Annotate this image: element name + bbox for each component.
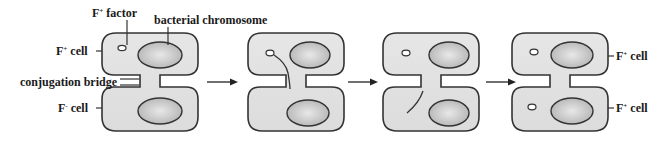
f-factor-plasmid-bottom	[528, 104, 536, 110]
stage-3	[383, 33, 479, 131]
f-factor-plasmid	[402, 50, 410, 56]
stage-4	[512, 33, 608, 131]
chromosome-bottom	[138, 98, 182, 124]
bacterial-chromosome-label: bacterial chromosome	[154, 13, 268, 27]
f-factor-plasmid	[118, 45, 126, 50]
chromosome-top	[551, 42, 593, 68]
f-plus-cell-top-label: F+ cell	[616, 49, 648, 63]
stage-2	[248, 33, 344, 131]
f-factor-plasmid	[266, 50, 274, 56]
f-factor-plasmid-top	[530, 49, 538, 55]
arrow-icon	[207, 79, 238, 86]
chromosome-bottom	[287, 100, 329, 126]
arrow-icon	[348, 79, 378, 86]
chromosome-bottom	[551, 98, 593, 124]
f-plus-cell-label: F+ cell	[56, 44, 88, 58]
conjugation-diagram: F+ factor bacterial chromosome F+ cell c…	[0, 0, 659, 146]
conjugation-bridge-label: conjugation bridge	[20, 75, 118, 89]
chromosome-top	[429, 42, 469, 68]
f-plus-cell-bottom-label: F+ cell	[616, 101, 648, 115]
arrow-icon	[486, 79, 516, 86]
chromosome-top	[138, 42, 182, 68]
f-factor-label: F+ factor	[92, 6, 138, 20]
f-minus-cell-label: F- cell	[58, 101, 89, 115]
chromosome-bottom	[429, 100, 469, 126]
chromosome-top	[290, 42, 330, 68]
